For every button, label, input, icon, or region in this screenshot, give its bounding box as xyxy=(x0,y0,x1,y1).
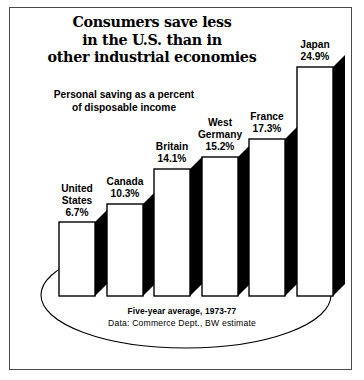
chart-title: Consumers save less in the U.S. than in … xyxy=(18,14,286,67)
chart-footer: Five-year average, 1973-77 Data: Commerc… xyxy=(52,306,312,329)
bar-west-germany xyxy=(202,157,238,296)
footer-note: Five-year average, 1973-77 xyxy=(52,306,312,317)
bar-label-name: France xyxy=(235,111,299,123)
subtitle-line-2: of disposable income xyxy=(18,101,230,114)
bar-shadow xyxy=(190,157,202,296)
bar-label-value: 10.3% xyxy=(93,188,157,200)
title-line-1: Consumers save less xyxy=(18,14,286,32)
bar-label-value: 14.1% xyxy=(140,153,204,165)
bar-shadow xyxy=(333,55,345,296)
chart-subtitle: Personal saving as a percent of disposab… xyxy=(18,88,230,114)
subtitle-line-1: Personal saving as a percent xyxy=(18,88,230,101)
bar-shadow xyxy=(285,127,297,296)
title-line-2: in the U.S. than in xyxy=(18,32,286,50)
bar-japan xyxy=(297,67,333,296)
bar-united-states xyxy=(59,222,95,296)
chart-page: Consumers save less in the U.S. than in … xyxy=(0,0,364,380)
bar-label-japan: Japan24.9% xyxy=(283,39,347,63)
bar-france xyxy=(249,139,285,296)
bar-shadow xyxy=(238,145,250,296)
footer-source: Data: Commerce Dept., BW estimate xyxy=(52,317,312,329)
bar-label-name: Japan xyxy=(283,39,347,51)
bar-label-value: 15.2% xyxy=(182,141,258,153)
bar-britain xyxy=(154,169,190,296)
bar-shadow xyxy=(95,210,107,296)
bar-label-value: 6.7% xyxy=(47,207,107,219)
bar-label-value: 17.3% xyxy=(235,123,299,135)
title-line-3: other industrial economies xyxy=(18,49,286,67)
bar-canada xyxy=(107,204,143,296)
bar-label-name: Canada xyxy=(93,176,157,188)
bar-shadow xyxy=(143,192,155,296)
bar-label-france: France17.3% xyxy=(235,111,299,135)
bar-label-value: 24.9% xyxy=(283,51,347,63)
bar-label-canada: Canada10.3% xyxy=(93,176,157,200)
